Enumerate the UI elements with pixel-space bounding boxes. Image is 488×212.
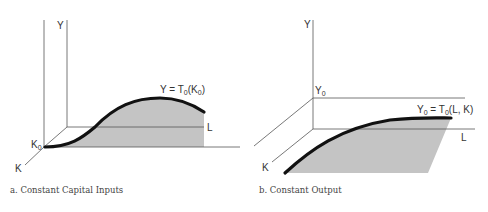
panel-b-k-label: K bbox=[262, 162, 269, 173]
panel-b-y-label: Y bbox=[304, 19, 311, 30]
panel-b-y0-diagonal bbox=[254, 98, 313, 146]
panel-a-caption: a. Constant Capital Inputs bbox=[10, 185, 123, 195]
panel-a-curve-label: Y = T0(K0) bbox=[160, 84, 205, 96]
production-function-diagrams: Y L K K0 Y = T0(K0) a. Constant Capital … bbox=[0, 0, 488, 212]
panel-a-constant-capital: Y L K K0 Y = T0(K0) a. Constant Capital … bbox=[10, 20, 240, 195]
panel-b-l-label: L bbox=[461, 132, 467, 143]
panel-a-k-label: K bbox=[15, 163, 22, 174]
panel-b-constant-output: Y Y0 L K Y0 = T0(L, K) b. Constant Outpu… bbox=[254, 19, 475, 195]
panel-b-curve-label: Y0 = T0(L, K) bbox=[417, 104, 473, 116]
panel-a-k0-label: K0 bbox=[31, 139, 42, 151]
panel-b-caption: b. Constant Output bbox=[259, 185, 342, 195]
panel-a-y-label: Y bbox=[57, 20, 64, 31]
panel-a-l-label: L bbox=[207, 122, 213, 133]
panel-b-y0-label: Y0 bbox=[315, 85, 326, 97]
